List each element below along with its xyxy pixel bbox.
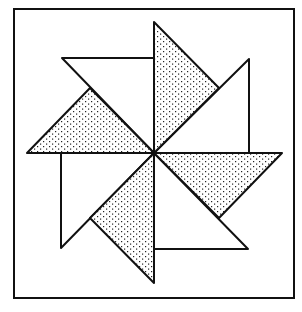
triangle-group [27, 22, 282, 283]
pinwheel-diagram [0, 0, 302, 312]
